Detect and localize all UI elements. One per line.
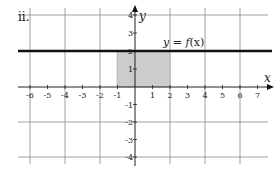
- part-label: ii.: [18, 10, 30, 24]
- x-tick-label: -3: [79, 91, 87, 100]
- x-tick-label: -2: [96, 91, 104, 100]
- x-tick-label: 6: [237, 91, 242, 100]
- y-tick-label: -4: [125, 153, 133, 162]
- x-tick-label: 5: [220, 91, 225, 100]
- x-tick-label: -1: [114, 91, 122, 100]
- x-tick-label: -4: [61, 91, 69, 100]
- y-tick-label: -3: [125, 136, 133, 145]
- y-tick-label: -1: [125, 101, 133, 110]
- x-tick-label: 4: [202, 91, 207, 100]
- y-tick-label: 3: [128, 29, 133, 38]
- graph: -6 -5 -4 -3 -2 -1 1 2 3 4 5 6 7 4 3 2 1 …: [0, 0, 280, 174]
- x-tick-label: 2: [167, 91, 172, 100]
- y-tick-label: 2: [128, 47, 133, 56]
- x-tick-label: 1: [150, 91, 155, 100]
- shaded-region: [117, 51, 170, 87]
- x-tick-label: -5: [44, 91, 52, 100]
- y-axis-label: y: [138, 9, 146, 23]
- x-axis-label: x: [264, 71, 271, 85]
- x-tick-labels: -6 -5 -4 -3 -2 -1 1 2 3 4 5 6 7: [26, 91, 260, 100]
- x-tick-label: 3: [185, 91, 190, 100]
- y-tick-label: 1: [128, 65, 133, 74]
- y-tick-label: 4: [128, 11, 133, 20]
- x-tick-label: 7: [255, 91, 260, 100]
- x-tick-label: -6: [26, 91, 34, 100]
- y-tick-label: -2: [125, 118, 133, 127]
- function-label: y = f(x): [162, 36, 204, 49]
